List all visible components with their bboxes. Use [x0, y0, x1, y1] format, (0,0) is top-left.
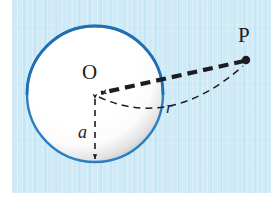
label-distance-r: r: [166, 99, 173, 116]
label-radius-a: a: [78, 123, 87, 141]
figure-vector-layer: [0, 0, 271, 204]
label-point-P: P: [238, 25, 250, 46]
physics-figure-sphere-point: O P a r: [0, 0, 271, 204]
point-P-dot: [242, 56, 250, 64]
label-center-O: O: [82, 62, 97, 83]
